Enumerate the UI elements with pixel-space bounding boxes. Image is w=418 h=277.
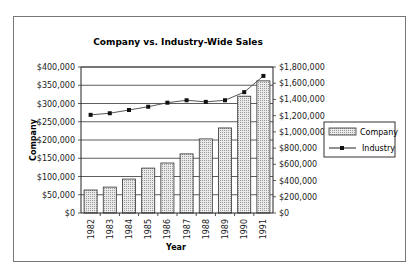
legend-industry-label: Industry bbox=[362, 144, 395, 153]
company-bar bbox=[180, 154, 193, 213]
industry-marker bbox=[146, 105, 150, 109]
legend-industry-marker bbox=[340, 146, 344, 150]
y-tick-label: $150,000 bbox=[37, 154, 75, 163]
y-tick-label: $350,000 bbox=[37, 81, 75, 90]
y2-tick-label: $0 bbox=[279, 209, 289, 218]
y2-tick-label: $1,000,000 bbox=[279, 128, 325, 137]
y2-tick-label: $1,600,000 bbox=[279, 79, 325, 88]
industry-marker bbox=[223, 98, 227, 102]
x-tick-label: 1986 bbox=[163, 219, 172, 239]
x-tick-label: 1990 bbox=[240, 219, 249, 239]
x-tick-label: 1985 bbox=[144, 219, 153, 239]
legend-company-swatch bbox=[329, 128, 356, 135]
company-bar bbox=[122, 179, 135, 213]
x-tick-label: 1982 bbox=[87, 219, 96, 239]
y2-tick-label: $1,800,000 bbox=[279, 63, 325, 72]
y2-tick-label: $800,000 bbox=[279, 144, 317, 153]
industry-marker bbox=[204, 100, 208, 104]
x-axis-ticks: 1982198319841985198619871988198919901991 bbox=[87, 213, 269, 239]
x-tick-label: 1989 bbox=[221, 219, 230, 239]
company-bar bbox=[142, 168, 155, 213]
right-axis-ticks: $0$200,000$400,000$600,000$800,000$1,000… bbox=[273, 63, 325, 218]
company-bar bbox=[238, 96, 251, 213]
combo-chart: Company vs. Industry-Wide Sales $0$50,00… bbox=[0, 0, 418, 277]
y-tick-label: $400,000 bbox=[37, 63, 75, 72]
y-tick-label: $0 bbox=[65, 209, 75, 218]
company-bar bbox=[161, 163, 174, 213]
y-tick-label: $250,000 bbox=[37, 118, 75, 127]
company-bars bbox=[84, 81, 270, 213]
y-tick-label: $200,000 bbox=[37, 136, 75, 145]
chart-title: Company vs. Industry-Wide Sales bbox=[93, 37, 263, 47]
legend-company-label: Company bbox=[360, 128, 398, 137]
company-bar bbox=[103, 187, 116, 213]
left-axis-ticks: $0$50,000$100,000$150,000$200,000$250,00… bbox=[37, 63, 81, 218]
industry-marker bbox=[165, 101, 169, 105]
y-tick-label: $100,000 bbox=[37, 173, 75, 182]
company-bar bbox=[199, 139, 212, 213]
x-tick-label: 1991 bbox=[259, 219, 268, 239]
y2-tick-label: $1,400,000 bbox=[279, 95, 325, 104]
industry-marker bbox=[261, 74, 265, 78]
y-tick-label: $300,000 bbox=[37, 100, 75, 109]
x-axis-label: Year bbox=[165, 243, 186, 252]
x-tick-label: 1983 bbox=[106, 219, 115, 239]
y2-tick-label: $600,000 bbox=[279, 160, 317, 169]
y-axis-label: Company bbox=[29, 118, 38, 161]
y-tick-label: $50,000 bbox=[42, 191, 75, 200]
y2-tick-label: $200,000 bbox=[279, 193, 317, 202]
x-tick-label: 1988 bbox=[202, 219, 211, 239]
y2-tick-label: $400,000 bbox=[279, 177, 317, 186]
x-tick-label: 1984 bbox=[125, 219, 134, 239]
x-tick-label: 1987 bbox=[183, 219, 192, 239]
industry-marker bbox=[127, 108, 131, 112]
company-bar bbox=[84, 190, 97, 213]
industry-marker bbox=[185, 98, 189, 102]
legend: Company Industry bbox=[324, 122, 398, 157]
industry-marker bbox=[108, 111, 112, 115]
y2-tick-label: $1,200,000 bbox=[279, 112, 325, 121]
industry-marker bbox=[89, 113, 93, 117]
industry-marker bbox=[242, 90, 246, 94]
company-bar bbox=[257, 81, 270, 213]
company-bar bbox=[218, 128, 231, 213]
